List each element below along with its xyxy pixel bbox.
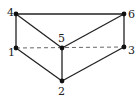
node-4 (14, 12, 19, 17)
edge-3-2 (62, 47, 124, 81)
edge-4-5 (16, 14, 62, 48)
node-6 (122, 12, 127, 17)
edge-1-3 (16, 47, 124, 48)
edge-1-2 (16, 48, 62, 81)
node-3 (122, 45, 127, 50)
edges-layer (16, 14, 124, 81)
node-label-2: 2 (58, 85, 65, 98)
graph-diagram: 123456 (0, 0, 139, 101)
node-label-4: 4 (7, 6, 14, 19)
node-label-5: 5 (58, 32, 65, 45)
node-5 (60, 46, 65, 51)
edge-6-5 (62, 14, 124, 48)
node-2 (60, 79, 65, 84)
node-label-3: 3 (128, 44, 135, 57)
node-label-6: 6 (128, 8, 135, 21)
node-label-1: 1 (8, 46, 15, 59)
